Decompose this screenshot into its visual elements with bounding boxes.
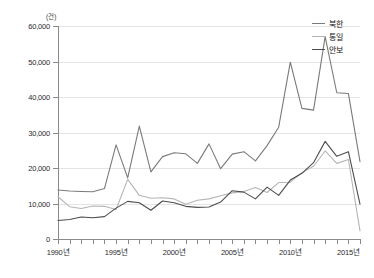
x-tick-label: 1995년 [105,246,128,257]
y-tick-label: 50,000 [4,57,50,66]
y-axis-unit-label: (건) [46,11,56,21]
x-tick-mark [279,240,280,244]
y-tick-label: 0 [4,235,50,244]
x-tick-mark [174,240,175,244]
x-tick-mark [290,240,291,244]
x-tick-mark [325,240,326,244]
legend-label: 북한 [329,18,343,29]
x-tick-mark [58,240,59,244]
y-tick-label: 30,000 [4,128,50,137]
y-tick-mark [53,204,58,205]
y-tick-mark [53,168,58,169]
line-chart: (건) 010,00020,00030,00040,00050,00060,00… [0,0,374,278]
legend-swatch-icon [312,36,325,37]
x-tick-mark [221,240,222,244]
y-tick-label: 20,000 [4,164,50,173]
grid-line [58,168,360,169]
x-tick-mark [209,240,210,244]
y-tick-label: 60,000 [4,22,50,31]
x-tick-mark [81,240,82,244]
grid-line [58,133,360,134]
x-tick-mark [255,240,256,244]
y-tick-label: 10,000 [4,199,50,208]
legend-item[interactable]: 통일 [312,30,343,43]
x-tick-mark [197,240,198,244]
legend-label: 통일 [329,31,343,42]
x-tick-mark [104,240,105,244]
x-tick-label: 2005년 [221,246,244,257]
y-tick-mark [53,62,58,63]
x-tick-mark [163,240,164,244]
x-tick-mark [70,240,71,244]
x-tick-label: 2010년 [279,246,302,257]
x-tick-mark [337,240,338,244]
grid-line [58,204,360,205]
plot-area [58,26,360,239]
x-tick-mark [93,240,94,244]
y-axis-line [58,26,59,240]
y-tick-mark [53,26,58,27]
x-tick-mark [116,240,117,244]
legend-swatch-icon [312,23,325,24]
y-tick-mark [53,133,58,134]
legend-swatch-icon [312,49,325,50]
x-tick-mark [314,240,315,244]
grid-line [58,62,360,63]
x-tick-label: 1990년 [47,246,70,257]
x-tick-mark [128,240,129,244]
legend-label: 안보 [329,44,343,55]
x-tick-mark [267,240,268,244]
x-tick-mark [348,240,349,244]
x-tick-mark [232,240,233,244]
x-tick-label: 2015년 [337,246,360,257]
chart-legend: 북한통일안보 [312,17,343,56]
y-tick-label: 40,000 [4,93,50,102]
legend-item[interactable]: 안보 [312,43,343,56]
legend-item[interactable]: 북한 [312,17,343,30]
x-tick-mark [360,240,361,244]
x-tick-mark [186,240,187,244]
x-tick-mark [244,240,245,244]
x-tick-mark [139,240,140,244]
x-tick-label: 2000년 [163,246,186,257]
y-tick-mark [53,97,58,98]
x-tick-mark [151,240,152,244]
grid-line [58,97,360,98]
x-tick-mark [302,240,303,244]
